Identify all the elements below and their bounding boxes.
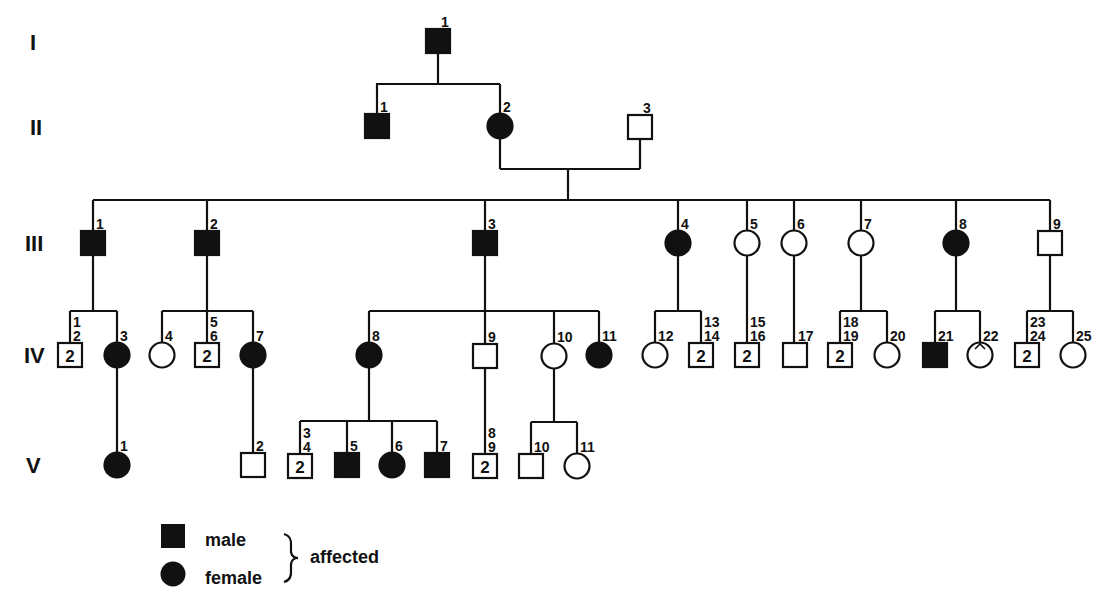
individual-iv-13-14: 21314 bbox=[689, 314, 720, 367]
unaffected-male-square-icon bbox=[519, 454, 543, 478]
individual-iv-15-16: 21516 bbox=[735, 314, 766, 367]
affected-female-circle-icon bbox=[380, 453, 405, 478]
individual-number: 3 bbox=[643, 100, 651, 116]
generation-label-v: V bbox=[26, 453, 41, 478]
affected-female-circle-icon bbox=[944, 231, 969, 256]
sibling-count: 2 bbox=[742, 347, 751, 366]
individual-number: 6 bbox=[210, 328, 218, 344]
generation-label-iii: III bbox=[25, 231, 43, 256]
affected-male-square-icon bbox=[473, 231, 497, 255]
individual-number: 2 bbox=[256, 438, 264, 454]
individual-number: 1 bbox=[96, 216, 104, 232]
individual-number: 1 bbox=[380, 99, 388, 115]
affected-male-square-icon bbox=[426, 29, 450, 53]
sibling-count: 2 bbox=[835, 347, 844, 366]
individual-number: 5 bbox=[350, 438, 358, 454]
brace-icon bbox=[284, 534, 298, 582]
individual-number: 25 bbox=[1076, 328, 1092, 344]
individual-number: 9 bbox=[488, 329, 496, 345]
affected-female-circle-icon bbox=[241, 343, 266, 368]
affected-female-legend-icon bbox=[161, 562, 186, 587]
affected-female-circle-icon bbox=[105, 343, 130, 368]
individual-ii-3: 3 bbox=[628, 100, 652, 139]
individual-number: 20 bbox=[890, 328, 906, 344]
individual-number: 24 bbox=[1030, 328, 1046, 344]
affected-male-square-icon bbox=[425, 453, 449, 477]
individual-iv-22: 22 bbox=[968, 328, 999, 368]
individual-number: 14 bbox=[704, 328, 720, 344]
sibling-count: 2 bbox=[202, 347, 211, 366]
unaffected-female-circle-icon bbox=[643, 343, 668, 368]
unaffected-male-square-icon bbox=[783, 343, 807, 367]
unaffected-male-square-icon bbox=[473, 344, 497, 368]
individual-number: 4 bbox=[681, 216, 689, 232]
individual-number: 3 bbox=[488, 216, 496, 232]
affected-female-circle-icon bbox=[105, 453, 130, 478]
unaffected-female-circle-icon bbox=[875, 343, 900, 368]
individual-iv-11: 11 bbox=[587, 328, 618, 368]
pedigree-lines bbox=[70, 53, 1073, 454]
unaffected-male-square-icon bbox=[1038, 231, 1062, 255]
sibling-count: 2 bbox=[1022, 347, 1031, 366]
affected-male-legend-icon bbox=[161, 524, 185, 548]
individual-v-10: 10 bbox=[519, 439, 550, 478]
individual-number: 2 bbox=[210, 216, 218, 232]
individual-number: 6 bbox=[395, 438, 403, 454]
individual-i-1: 1 bbox=[426, 14, 450, 53]
sibling-count: 2 bbox=[295, 458, 304, 477]
individual-number: 2 bbox=[73, 328, 81, 344]
generation-label-i: I bbox=[30, 30, 36, 55]
generation-label-ii: II bbox=[30, 115, 42, 140]
individual-number: 22 bbox=[983, 328, 999, 344]
affected-male-square-icon bbox=[81, 231, 105, 255]
sibling-count: 2 bbox=[480, 458, 489, 477]
generation-labels: IIIIIIIVV bbox=[24, 30, 45, 478]
affected-female-circle-icon bbox=[666, 231, 691, 256]
individual-iv-20: 20 bbox=[875, 328, 906, 368]
individual-iv-21: 21 bbox=[923, 328, 954, 367]
individual-number: 9 bbox=[1053, 216, 1061, 232]
individual-number: 12 bbox=[658, 328, 674, 344]
legend: male female affected bbox=[161, 524, 380, 588]
individual-number: 9 bbox=[488, 439, 496, 455]
sibling-count: 2 bbox=[65, 347, 74, 366]
affected-male-square-icon bbox=[195, 231, 219, 255]
individual-number: 11 bbox=[580, 439, 595, 455]
affected-male-square-icon bbox=[335, 453, 359, 477]
legend-female-label: female bbox=[205, 568, 262, 588]
legend-male-label: male bbox=[205, 530, 246, 550]
affected-male-square-icon bbox=[365, 114, 389, 138]
individual-number: 4 bbox=[303, 439, 311, 455]
individual-number: 4 bbox=[165, 328, 173, 344]
individual-number: 7 bbox=[256, 328, 264, 344]
individual-number: 7 bbox=[440, 438, 448, 454]
individual-v-11: 11 bbox=[565, 439, 596, 479]
pedigree-individuals: 1123123456789212342567891011122131421516… bbox=[58, 14, 1092, 479]
individual-iv-10: 10 bbox=[542, 329, 573, 369]
individual-number: 21 bbox=[938, 328, 954, 344]
unaffected-female-circle-icon bbox=[782, 231, 807, 256]
individual-number: 1 bbox=[441, 14, 449, 30]
unaffected-female-circle-icon bbox=[968, 343, 993, 368]
pedigree-diagram: IIIIIIIVV 112312345678921234256789101112… bbox=[0, 0, 1115, 600]
unaffected-female-circle-icon bbox=[565, 454, 590, 479]
individual-number: 16 bbox=[750, 328, 766, 344]
unaffected-female-circle-icon bbox=[542, 344, 567, 369]
individual-number: 5 bbox=[750, 216, 758, 232]
individual-iv-18-19: 21819 bbox=[828, 314, 859, 367]
individual-number: 10 bbox=[534, 439, 550, 455]
individual-iv-17: 17 bbox=[783, 328, 814, 367]
affected-female-circle-icon bbox=[587, 343, 612, 368]
generation-label-iv: IV bbox=[24, 343, 45, 368]
individual-number: 17 bbox=[798, 328, 814, 344]
affected-female-circle-icon bbox=[357, 343, 382, 368]
affected-male-square-icon bbox=[923, 343, 947, 367]
individual-number: 6 bbox=[797, 216, 805, 232]
individual-number: 3 bbox=[120, 328, 128, 344]
individual-number: 10 bbox=[557, 329, 573, 345]
individual-number: 1 bbox=[120, 438, 128, 454]
affected-female-circle-icon bbox=[488, 114, 513, 139]
individual-iv-25: 25 bbox=[1061, 328, 1092, 368]
individual-iv-12: 12 bbox=[643, 328, 674, 368]
individual-number: 8 bbox=[959, 216, 967, 232]
